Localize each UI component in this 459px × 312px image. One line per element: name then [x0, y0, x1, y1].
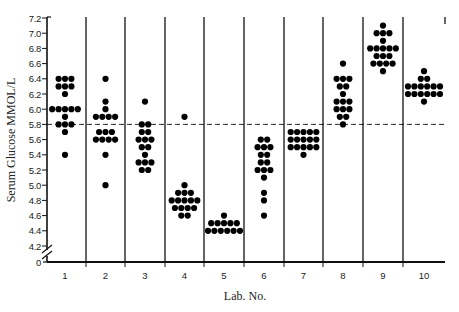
x-category-label: 2 — [103, 270, 108, 281]
data-point — [106, 114, 112, 120]
data-point — [181, 182, 187, 188]
data-point — [56, 121, 62, 127]
y-tick-label: 5.4 — [29, 149, 41, 160]
data-point — [343, 114, 349, 120]
data-point — [62, 121, 68, 127]
data-point — [139, 144, 145, 150]
data-point — [181, 197, 187, 203]
data-point — [221, 213, 227, 219]
data-point — [255, 167, 261, 173]
y-tick-label: 4.8 — [29, 195, 41, 206]
dot-plot-chart: 04.24.44.64.85.05.25.45.65.86.06.26.46.6… — [0, 0, 459, 312]
data-point — [261, 175, 267, 181]
data-point — [258, 152, 264, 158]
data-point — [142, 137, 148, 143]
data-point — [227, 220, 233, 226]
data-point — [300, 137, 306, 143]
y-tick-label: 7.0 — [29, 28, 41, 39]
data-point — [68, 83, 74, 89]
x-category-label: 4 — [182, 270, 187, 281]
y-tick-label: 4.6 — [29, 210, 41, 221]
data-point — [431, 83, 437, 89]
data-point — [405, 91, 411, 97]
data-point — [109, 129, 115, 135]
data-point — [62, 83, 68, 89]
data-point — [215, 220, 221, 226]
data-point — [96, 129, 102, 135]
data-point — [340, 61, 346, 67]
data-point — [205, 228, 211, 234]
y-axis-title: Serum Glucose MMOL/L — [4, 78, 18, 203]
x-category-label: 6 — [261, 270, 266, 281]
y-tick-label: 6.4 — [29, 73, 41, 84]
data-point — [139, 129, 145, 135]
data-point — [142, 99, 148, 105]
y-tick-label: 4.4 — [29, 225, 41, 236]
data-point — [145, 144, 151, 150]
data-point — [261, 167, 267, 173]
data-point — [102, 129, 108, 135]
y-tick-label: 5.6 — [29, 134, 41, 145]
data-point — [264, 137, 270, 143]
data-point — [367, 45, 373, 51]
data-point — [99, 114, 105, 120]
data-point — [142, 152, 148, 158]
data-point — [102, 152, 108, 158]
data-point — [421, 68, 427, 74]
data-point — [261, 144, 267, 150]
data-point — [169, 197, 175, 203]
data-point — [136, 137, 142, 143]
data-point — [188, 190, 194, 196]
data-point — [181, 114, 187, 120]
data-point — [172, 205, 178, 211]
data-point — [340, 91, 346, 97]
data-point — [300, 152, 306, 158]
data-point — [411, 83, 417, 89]
x-category-label: 5 — [221, 270, 226, 281]
data-point — [346, 99, 352, 105]
data-point — [62, 91, 68, 97]
data-point — [49, 106, 55, 112]
data-point — [224, 228, 230, 234]
data-point — [181, 190, 187, 196]
data-point — [258, 137, 264, 143]
data-point — [267, 144, 273, 150]
data-point — [380, 23, 386, 29]
data-point — [380, 45, 386, 51]
data-point — [264, 159, 270, 165]
data-point — [343, 83, 349, 89]
data-point — [424, 76, 430, 82]
data-point — [411, 91, 417, 97]
data-point — [437, 91, 443, 97]
data-point — [431, 91, 437, 97]
data-point — [75, 106, 81, 112]
data-point — [393, 45, 399, 51]
data-point — [418, 76, 424, 82]
y-tick-label: 7.2 — [29, 13, 41, 24]
data-point — [148, 159, 154, 165]
data-point — [112, 114, 118, 120]
data-point — [56, 76, 62, 82]
y-tick-label: 0 — [36, 257, 41, 268]
data-point — [390, 61, 396, 67]
data-point — [294, 137, 300, 143]
data-point — [294, 129, 300, 135]
data-point — [370, 61, 376, 67]
y-axis-ticks: 04.24.44.64.85.05.25.45.65.86.06.26.46.6… — [29, 13, 47, 268]
data-point — [102, 106, 108, 112]
data-point — [139, 121, 145, 127]
data-point — [374, 53, 380, 59]
data-point — [418, 83, 424, 89]
data-point — [294, 144, 300, 150]
data-point — [267, 167, 273, 173]
data-point — [374, 45, 380, 51]
data-point — [68, 76, 74, 82]
data-point — [377, 61, 383, 67]
data-point — [178, 205, 184, 211]
data-point — [175, 197, 181, 203]
data-point — [337, 83, 343, 89]
data-point — [139, 167, 145, 173]
x-category-label: 7 — [301, 270, 306, 281]
data-point — [136, 159, 142, 165]
data-point — [218, 228, 224, 234]
